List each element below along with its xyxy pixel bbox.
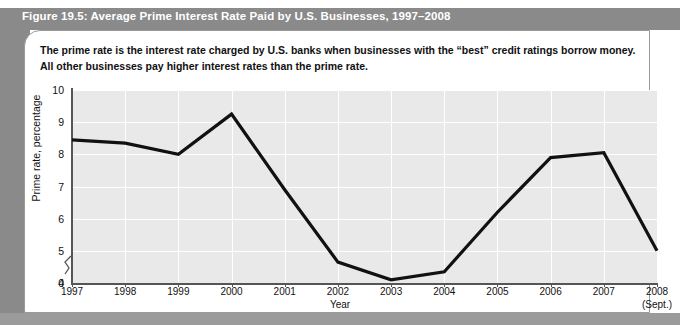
x-tick-label: 2004 (416, 286, 472, 297)
line-chart: 456789100 199719981999200020012002200320… (0, 0, 680, 325)
x-tick-label: 1999 (150, 286, 206, 297)
x-tick-label: 1997 (44, 286, 100, 297)
y-tick-label: 5 (38, 245, 64, 257)
x-tick-label: 2003 (363, 286, 419, 297)
y-axis-label: Prime rate, percentage (30, 78, 42, 218)
x-tick-label: 2006 (523, 286, 579, 297)
vertical-gridline (657, 90, 658, 283)
x-tick-label: 2001 (257, 286, 313, 297)
series-prime-rate (72, 90, 657, 283)
x-tick-label: 2002 (310, 286, 366, 297)
x-tick-label: 2008 (629, 286, 680, 297)
x-axis-line (71, 283, 657, 285)
x-axis-label: Year (0, 299, 680, 310)
x-tick-label: 2005 (469, 286, 525, 297)
x-tick-label: 1998 (97, 286, 153, 297)
x-tick-label: 2007 (576, 286, 632, 297)
x-tick-label: 2000 (204, 286, 260, 297)
